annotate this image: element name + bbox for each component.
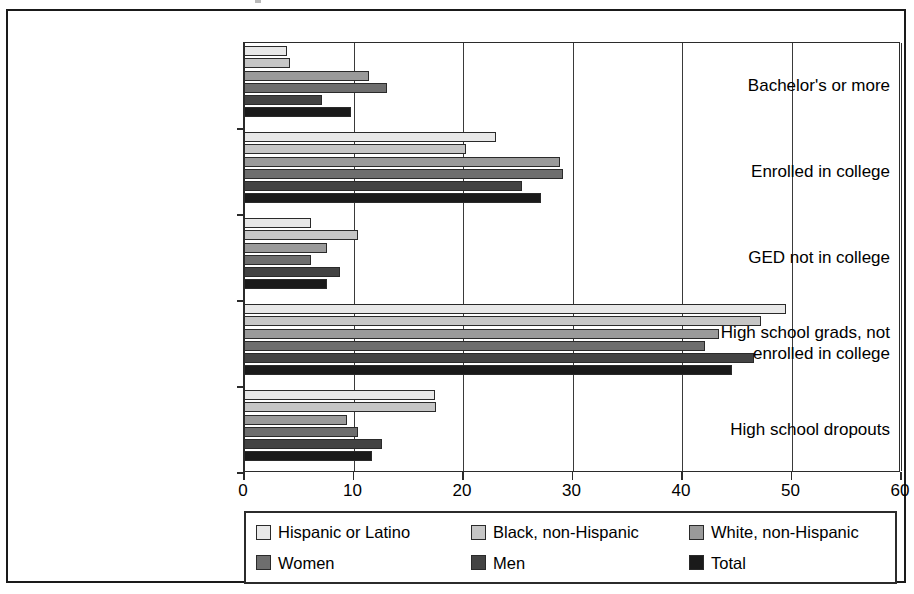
- x-tick: [462, 472, 464, 480]
- x-axis-ticks: [243, 472, 900, 480]
- legend-label: Hispanic or Latino: [278, 522, 410, 542]
- bar: [244, 267, 340, 277]
- legend-item: Black, non-Hispanic: [471, 522, 689, 542]
- legend-item: Men: [471, 553, 689, 573]
- legend-label: Women: [278, 553, 335, 573]
- legend-swatch-icon: [689, 555, 704, 570]
- bar: [244, 365, 732, 375]
- category-label: Enrolled in college: [679, 161, 904, 182]
- x-tick: [900, 472, 902, 480]
- x-tick: [791, 472, 793, 480]
- category-label-line: Enrolled in college: [679, 161, 890, 182]
- legend-item: Total: [689, 553, 895, 573]
- x-tick-label: 20: [453, 480, 472, 502]
- bar: [244, 218, 311, 228]
- category-label-line: GED not in college: [679, 247, 890, 268]
- category-label-line: enrolled in college: [679, 343, 890, 364]
- bar: [244, 304, 786, 314]
- bar: [244, 181, 522, 191]
- legend-items: Hispanic or LatinoBlack, non-HispanicWhi…: [246, 513, 895, 582]
- x-tick-label: 10: [343, 480, 362, 502]
- bar: [244, 71, 369, 81]
- bar: [244, 402, 436, 412]
- category-label: GED not in college: [679, 247, 904, 268]
- x-tick-label: 30: [562, 480, 581, 502]
- bar: [244, 390, 435, 400]
- category-label-line: High school grads, not: [679, 322, 890, 343]
- bar: [244, 144, 466, 154]
- x-tick-label: 60: [891, 480, 910, 502]
- x-tick-label: 40: [672, 480, 691, 502]
- scan-artifact: [255, 0, 261, 3]
- bar: [244, 132, 496, 142]
- bar: [244, 95, 322, 105]
- bar: [244, 157, 560, 167]
- category-label-line: High school dropouts: [679, 419, 890, 440]
- x-tick-label: 50: [781, 480, 800, 502]
- legend-label: Men: [493, 553, 525, 573]
- bar: [244, 169, 563, 179]
- legend-swatch-icon: [689, 525, 704, 540]
- bar: [244, 230, 358, 240]
- x-tick: [681, 472, 683, 480]
- bar: [244, 451, 372, 461]
- legend-item: White, non-Hispanic: [689, 522, 895, 542]
- legend-label: Total: [711, 553, 746, 573]
- legend-swatch-icon: [471, 555, 486, 570]
- bar: [244, 107, 351, 117]
- bar: [244, 83, 387, 93]
- x-tick: [572, 472, 574, 480]
- legend-swatch-icon: [471, 525, 486, 540]
- x-tick-label: 0: [238, 480, 247, 502]
- bar: [244, 329, 719, 339]
- category-tick: [237, 300, 244, 302]
- bar: [244, 415, 347, 425]
- bar: [244, 427, 358, 437]
- bar: [244, 193, 541, 203]
- bar: [244, 353, 754, 363]
- category-label: High school grads, notenrolled in colleg…: [679, 322, 904, 364]
- legend-label: White, non-Hispanic: [711, 522, 859, 542]
- bar: [244, 46, 287, 56]
- chart-legend: Hispanic or LatinoBlack, non-HispanicWhi…: [244, 511, 897, 584]
- bar: [244, 279, 327, 289]
- x-tick: [353, 472, 355, 480]
- category-label: High school dropouts: [679, 419, 904, 440]
- bar: [244, 439, 382, 449]
- legend-label: Black, non-Hispanic: [493, 522, 639, 542]
- bar: [244, 58, 290, 68]
- legend-item: Women: [256, 553, 471, 573]
- figure-frame: Bachelor's or moreEnrolled in collegeGED…: [6, 9, 906, 583]
- category-tick: [237, 214, 244, 216]
- legend-swatch-icon: [256, 525, 271, 540]
- category-tick: [237, 386, 244, 388]
- bar: [244, 341, 705, 351]
- legend-swatch-icon: [256, 555, 271, 570]
- category-label-line: Bachelor's or more: [679, 75, 890, 96]
- x-axis-tick-labels: 0102030405060: [243, 480, 900, 504]
- legend-item: Hispanic or Latino: [256, 522, 471, 542]
- x-tick: [243, 472, 245, 480]
- bar: [244, 255, 311, 265]
- category-label: Bachelor's or more: [679, 75, 904, 96]
- category-tick: [237, 128, 244, 130]
- bar: [244, 243, 327, 253]
